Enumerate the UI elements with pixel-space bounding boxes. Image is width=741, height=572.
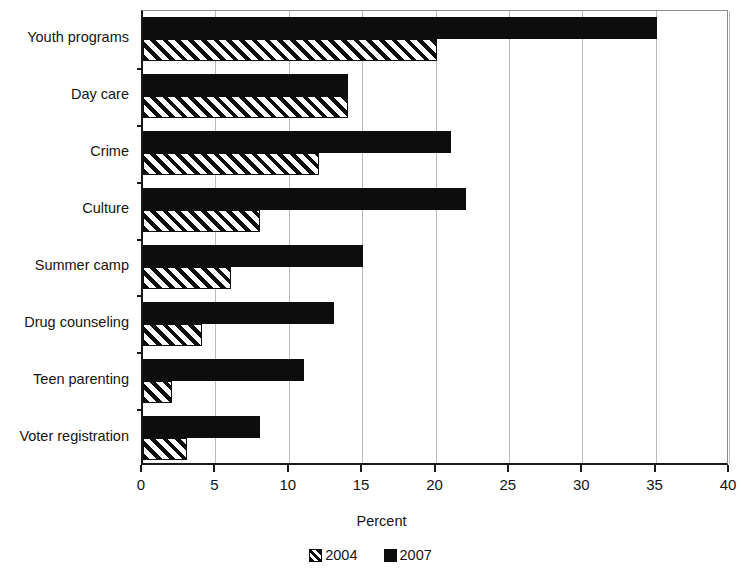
bar-2007 xyxy=(143,188,466,210)
bar-2004 xyxy=(143,381,172,403)
bar-2007 xyxy=(143,131,451,153)
x-axis-tick-label: 10 xyxy=(265,477,311,492)
x-axis-tick-label: 15 xyxy=(338,477,384,492)
solid-swatch-icon xyxy=(384,549,397,562)
gridline xyxy=(729,11,730,463)
bar-2004 xyxy=(143,438,187,460)
x-axis-tick xyxy=(654,465,656,472)
legend-label: 2007 xyxy=(400,548,432,563)
bar-group xyxy=(143,11,727,68)
bar-chart: Youth programsDay careCrimeCultureSummer… xyxy=(0,0,741,572)
chart-legend: 20042007 xyxy=(0,548,741,563)
x-axis-tick-label: 30 xyxy=(558,477,604,492)
category-label: Crime xyxy=(0,144,136,159)
bar-group xyxy=(143,352,727,409)
x-axis-tick xyxy=(213,465,215,472)
category-label: Youth programs xyxy=(0,30,136,45)
hatch-swatch-icon xyxy=(309,549,322,562)
bar-2004 xyxy=(143,324,202,346)
bar-2007 xyxy=(143,245,363,267)
x-axis-tick xyxy=(287,465,289,472)
bar-group xyxy=(143,125,727,182)
bar-group xyxy=(143,239,727,296)
bar-group xyxy=(143,295,727,352)
category-label: Culture xyxy=(0,201,136,216)
bar-2004 xyxy=(143,153,319,175)
category-label: Drug counseling xyxy=(0,315,136,330)
bar-group xyxy=(143,68,727,125)
category-label: Voter registration xyxy=(0,429,136,444)
x-axis-tick xyxy=(580,465,582,472)
y-axis-tick xyxy=(137,182,143,184)
x-axis-tick-label: 5 xyxy=(191,477,237,492)
x-axis-tick-label: 0 xyxy=(118,477,164,492)
bar-2007 xyxy=(143,302,334,324)
y-axis-tick xyxy=(137,239,143,241)
x-axis-tick-label: 20 xyxy=(412,477,458,492)
x-axis-tick xyxy=(360,465,362,472)
x-axis-title: Percent xyxy=(0,513,741,529)
bar-2004 xyxy=(143,267,231,289)
x-axis-tick xyxy=(507,465,509,472)
bar-2004 xyxy=(143,39,437,61)
plot-area xyxy=(141,10,728,465)
y-axis-tick xyxy=(137,125,143,127)
bar-2007 xyxy=(143,416,260,438)
bar-group xyxy=(143,182,727,239)
x-axis-tick xyxy=(434,465,436,472)
y-axis-tick xyxy=(137,352,143,354)
y-axis-tick xyxy=(137,295,143,297)
y-axis-tick xyxy=(137,409,143,411)
bar-2007 xyxy=(143,359,304,381)
category-label: Teen parenting xyxy=(0,372,136,387)
x-axis-tick-label: 25 xyxy=(485,477,531,492)
bar-group xyxy=(143,409,727,466)
bar-2007 xyxy=(143,17,657,39)
bar-2004 xyxy=(143,96,348,118)
x-axis-tick-label: 40 xyxy=(705,477,741,492)
x-axis-tick xyxy=(727,465,729,472)
legend-item-2004: 2004 xyxy=(309,548,357,563)
legend-label: 2004 xyxy=(325,548,357,563)
y-axis-tick xyxy=(137,68,143,70)
category-label: Summer camp xyxy=(0,258,136,273)
category-label: Day care xyxy=(0,87,136,102)
legend-item-2007: 2007 xyxy=(384,548,432,563)
bar-2004 xyxy=(143,210,260,232)
bar-2007 xyxy=(143,74,348,96)
x-axis-tick-label: 35 xyxy=(632,477,678,492)
x-axis-title-text: Percent xyxy=(357,513,407,529)
x-axis-tick xyxy=(140,465,142,472)
